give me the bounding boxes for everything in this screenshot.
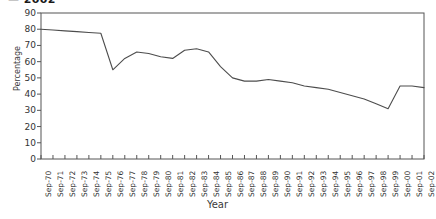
plot-frame [41, 13, 424, 159]
data-series-line [41, 29, 424, 108]
x-axis-title: Year [0, 199, 435, 210]
